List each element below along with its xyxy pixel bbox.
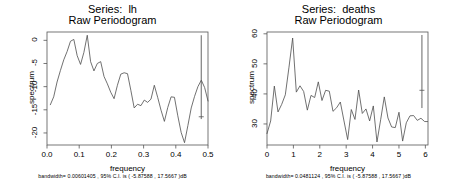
ytick-label: 60: [250, 24, 259, 42]
panel-lh: Series: lh Raw Periodogram spectrum freq…: [0, 0, 225, 191]
xtick-label: 0.4: [162, 150, 190, 159]
ytick-label: -5: [30, 54, 39, 72]
ytick-label: 50: [250, 54, 259, 72]
xtick-label: 0.2: [97, 150, 125, 159]
xtick-label: 1: [279, 150, 307, 159]
xtick-label: 0.5: [194, 150, 222, 159]
xtick-label: 2: [306, 150, 334, 159]
panel-lh-xlabel: frequency: [47, 164, 208, 173]
xtick-label: 0.1: [65, 150, 93, 159]
xtick-label: 3: [332, 150, 360, 159]
panel-deaths-xlabel: frequency: [267, 164, 428, 173]
panel-deaths: Series: deaths Raw Periodogram spectrum …: [226, 0, 451, 191]
xtick-label: 0.0: [33, 150, 61, 159]
panel-lh-caption: bandwidth= 0.00601405 , 95% C.I. is ( -5…: [0, 173, 225, 179]
ytick-label: -15: [30, 100, 39, 118]
ytick-label: -20: [30, 123, 39, 141]
xtick-label: 0: [253, 150, 281, 159]
xtick-label: 5: [385, 150, 413, 159]
xtick-label: 4: [359, 150, 387, 159]
ytick-label: -10: [30, 77, 39, 95]
xtick-label: 6: [411, 150, 439, 159]
periodogram-figure: Series: lh Raw Periodogram spectrum freq…: [0, 0, 451, 191]
ytick-label: 40: [250, 84, 259, 102]
ytick-label: 30: [250, 114, 259, 132]
xtick-label: 0.3: [130, 150, 158, 159]
panel-deaths-caption: bandwidth= 0.0481124 , 95% C.I. is ( -5.…: [226, 173, 451, 179]
panel-deaths-plot-area: [226, 0, 451, 191]
ytick-label: 0: [30, 31, 39, 49]
